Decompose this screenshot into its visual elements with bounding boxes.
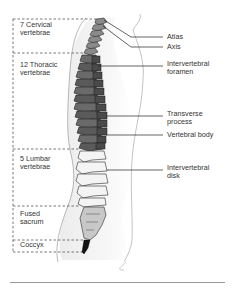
label-coccyx: Coccyx (20, 241, 44, 249)
label-atlas: Atlas (167, 33, 183, 41)
label-cervical: 7 Cervical vertebrae (20, 21, 52, 37)
label-thoracic: 12 Thoracic vertebrae (20, 61, 57, 77)
label-transverse-process: Transverse process (167, 110, 203, 126)
label-lumbar: 5 Lumbar vertebrae (20, 155, 50, 171)
label-sacrum: Fused sacrum (20, 210, 44, 226)
label-vertebral-body: Vertebral body (167, 131, 213, 139)
lumbar-vertebrae (76, 151, 108, 207)
label-axis: Axis (167, 43, 181, 51)
spine-diagram: 7 Cervical vertebrae 12 Thoracic vertebr… (0, 0, 235, 289)
label-intervertebral-foramen: Intervertebral foramen (167, 60, 209, 76)
bottom-rule (10, 282, 225, 283)
label-intervertebral-disk: Intervertebral disk (167, 164, 209, 180)
